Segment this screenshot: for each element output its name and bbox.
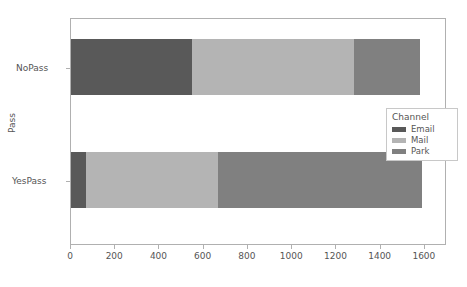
figure-canvas: Pass NoPass YesPass 02004006008001000120… — [0, 0, 467, 287]
x-tick-mark — [203, 245, 204, 249]
legend-title: Channel — [392, 112, 452, 122]
bar-segment-yespass-mail — [86, 152, 217, 208]
x-tick-label: 1200 — [315, 251, 355, 261]
x-tick-label: 1000 — [271, 251, 311, 261]
legend-label-mail: Mail — [411, 135, 428, 145]
bar-segment-nopass-park — [354, 39, 420, 95]
legend: Channel Email Mail Park — [386, 108, 458, 161]
x-tick-label: 200 — [94, 251, 134, 261]
legend-entry-mail[interactable]: Mail — [392, 135, 452, 145]
legend-swatch-mail — [392, 138, 406, 143]
caption-strip — [0, 274, 467, 287]
bar-segment-nopass-email — [71, 39, 192, 95]
x-tick-mark — [335, 245, 336, 249]
x-tick-label: 0 — [50, 251, 90, 261]
x-tick-label: 600 — [183, 251, 223, 261]
bar-segment-yespass-email — [71, 152, 86, 208]
y-tick-label-nopass: NoPass — [16, 63, 48, 73]
x-tick-mark — [291, 245, 292, 249]
legend-swatch-park — [392, 149, 406, 154]
x-tick-mark — [380, 245, 381, 249]
legend-swatch-email — [392, 127, 406, 132]
x-tick-mark — [70, 245, 71, 249]
legend-entry-email[interactable]: Email — [392, 124, 452, 134]
x-tick-label: 1400 — [360, 251, 400, 261]
x-tick-mark — [114, 245, 115, 249]
x-tick-label: 800 — [227, 251, 267, 261]
x-tick-mark — [424, 245, 425, 249]
x-tick-mark — [247, 245, 248, 249]
y-axis-title: Pass — [7, 103, 17, 143]
x-tick-label: 1600 — [404, 251, 444, 261]
bar-segment-nopass-mail — [192, 39, 355, 95]
x-tick-mark — [158, 245, 159, 249]
legend-label-park: Park — [411, 146, 429, 156]
legend-label-email: Email — [411, 124, 435, 134]
legend-entry-park[interactable]: Park — [392, 146, 452, 156]
y-tick-label-yespass: YesPass — [12, 176, 46, 186]
bar-group-nopass — [71, 39, 445, 95]
x-tick-label: 400 — [138, 251, 178, 261]
